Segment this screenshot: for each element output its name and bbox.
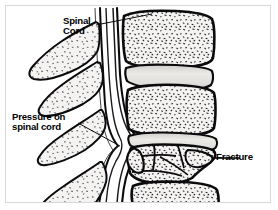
label-pressure-line2: spinal cord — [12, 121, 61, 132]
spine-fracture-illustration — [0, 0, 278, 210]
fractured-vertebra — [127, 145, 215, 184]
label-pressure-on-spinal-cord: Pressure onspinal cord — [12, 112, 65, 132]
label-spinal-cord-line2: Cord — [63, 25, 85, 36]
label-fracture: Fracture — [216, 152, 253, 162]
vertebral-bodies — [123, 11, 219, 208]
label-spinal-cord: SpinalCord — [63, 16, 91, 36]
illustration-page: SpinalCord Pressure onspinal cord Fractu… — [0, 0, 278, 210]
